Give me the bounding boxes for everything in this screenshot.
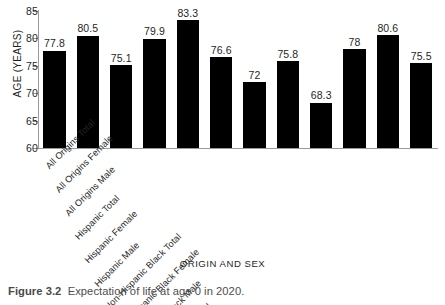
bar-slot: 79.9 xyxy=(138,11,171,148)
bar-slot: 72 xyxy=(238,11,271,148)
bar-slot: 75.8 xyxy=(271,11,304,148)
bar[interactable] xyxy=(177,20,200,148)
figure-container: 606570758085 AGE (YEARS) 77.880.575.179.… xyxy=(0,0,445,305)
bar-value-label: 76.6 xyxy=(202,45,241,56)
bar-value-label: 77.8 xyxy=(35,38,74,49)
x-axis-title: ORIGIN AND SEX xyxy=(0,258,445,269)
bar[interactable] xyxy=(377,35,400,148)
bar[interactable] xyxy=(110,65,133,148)
x-axis-category-labels: All Origins TotalAll Origins FemaleAll O… xyxy=(38,150,438,255)
bar-value-label: 75.1 xyxy=(102,53,141,64)
figure-caption: Figure 3.2 Expectation of life at age 0 … xyxy=(8,284,438,298)
bar-value-label: 75.5 xyxy=(402,51,441,62)
bar[interactable] xyxy=(277,61,300,148)
plot-area: 77.880.575.179.983.376.67275.868.37880.6… xyxy=(38,11,438,148)
bar-value-label: 80.5 xyxy=(68,23,107,34)
figure-caption-text: Expectation of life at age 0 in 2020. xyxy=(68,285,245,297)
bar-slot: 80.6 xyxy=(371,11,404,148)
bar-value-label: 79.9 xyxy=(135,26,174,37)
bar-value-label: 78 xyxy=(335,37,374,48)
bar-value-label: 83.3 xyxy=(168,8,207,19)
bar[interactable] xyxy=(43,51,66,149)
bar[interactable] xyxy=(343,49,366,148)
x-axis-category-label: All Origins Total xyxy=(44,150,65,171)
bar[interactable] xyxy=(243,82,266,148)
y-axis-tick-label: 60 xyxy=(8,143,38,153)
figure-caption-label: Figure 3.2 xyxy=(8,285,61,297)
x-axis-category-label: All Origins Male xyxy=(63,150,131,218)
y-axis-title: AGE (YEARS) xyxy=(12,4,23,124)
bar[interactable] xyxy=(210,57,233,148)
bar-slot: 76.6 xyxy=(205,11,238,148)
bar[interactable] xyxy=(310,103,333,149)
bar-value-label: 80.6 xyxy=(368,23,407,34)
bar-value-label: 68.3 xyxy=(302,90,341,101)
bar-slot: 75.1 xyxy=(105,11,138,148)
bar-value-label: 72 xyxy=(235,70,274,81)
bar-slot: 68.3 xyxy=(305,11,338,148)
bar[interactable] xyxy=(410,63,433,148)
bar-slot: 78 xyxy=(338,11,371,148)
bar-value-label: 75.8 xyxy=(268,49,307,60)
bar-slot: 77.8 xyxy=(38,11,71,148)
bar[interactable] xyxy=(143,39,166,148)
bar-slot: 75.5 xyxy=(405,11,438,148)
bar-slot: 83.3 xyxy=(171,11,204,148)
